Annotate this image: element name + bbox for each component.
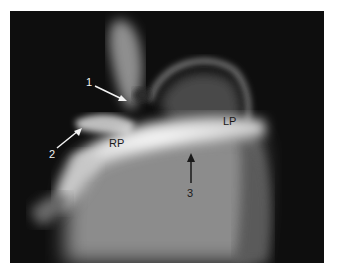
label-rp: RP [109, 138, 124, 149]
label-1: 1 [86, 77, 92, 88]
label-2: 2 [49, 149, 55, 160]
angiogram-image [10, 11, 324, 263]
angiogram-scene [10, 11, 324, 263]
label-lp: LP [223, 116, 236, 127]
label-3: 3 [187, 188, 193, 199]
